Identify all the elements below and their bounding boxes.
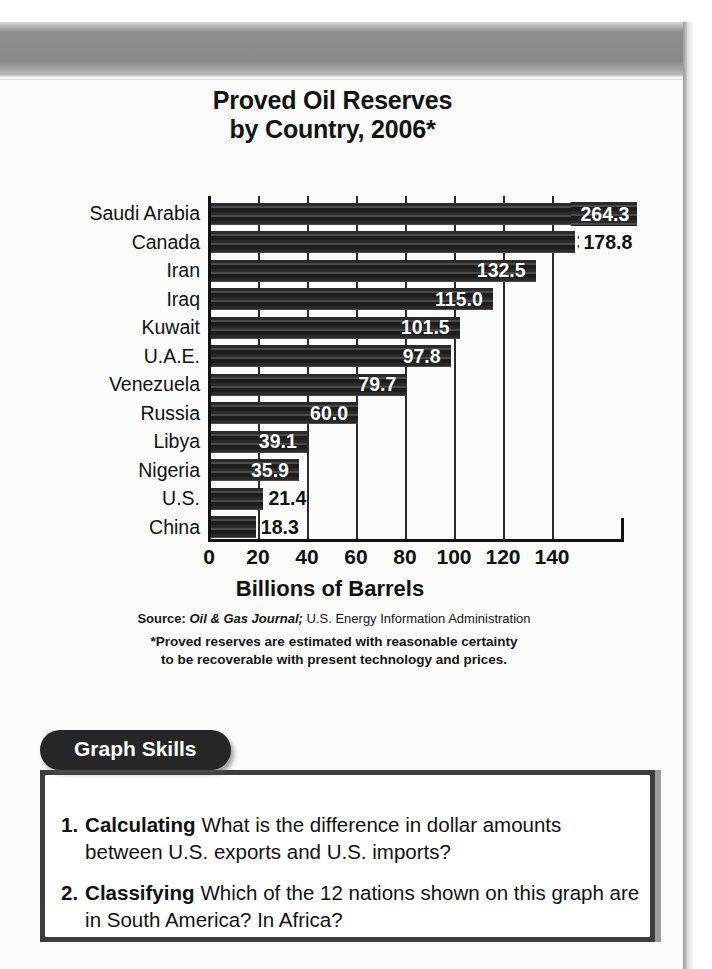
bar-value-label: 264.3 [571, 202, 638, 226]
bar-value-label: 178.8 [584, 230, 633, 255]
x-tick-20: 20 [246, 544, 269, 570]
category-label: Saudi Arabia [0, 201, 200, 226]
x-tick-100: 100 [436, 544, 471, 570]
textbook-page: Proved Oil Reserves by Country, 2006* Sa… [0, 0, 712, 969]
graph-skills-tab: Graph Skills [40, 730, 231, 770]
bar-value-label: 60.0 [296, 401, 348, 426]
footnote-line-1: *Proved reserves are estimated with reas… [0, 633, 668, 651]
bar-row: Canada178.8 [0, 229, 683, 258]
x-tick-0: 0 [203, 544, 215, 570]
skills-question: 1.CalculatingWhat is the difference in d… [61, 811, 641, 866]
footnote-line-2: to be recoverable with present technolog… [0, 651, 668, 669]
category-label: Russia [0, 401, 200, 426]
plot-area: Saudi Arabia264.3Canada178.8Iran132.5Ira… [0, 196, 683, 546]
source-label: Source: [137, 611, 185, 626]
chart-title-line-1: Proved Oil Reserves [0, 86, 665, 115]
bar-row: Saudi Arabia264.3 [0, 200, 683, 229]
bar [211, 488, 263, 510]
source-note: Source: Oil & Gas Journal; U.S. Energy I… [0, 611, 668, 626]
question-number: 2. [61, 879, 78, 934]
bar-row: U.A.E.97.8 [0, 343, 683, 372]
bar-row: Russia60.0 [0, 400, 683, 429]
bar-value-label: 18.3 [261, 515, 299, 540]
bar-value-label: 115.0 [431, 287, 483, 312]
chart-footnote: *Proved reserves are estimated with reas… [0, 633, 668, 669]
chart-title-line-2: by Country, 2006* [0, 115, 665, 144]
bar-chart-figure: Proved Oil Reserves by Country, 2006* Sa… [0, 86, 683, 143]
bar-value-label: 79.7 [344, 372, 396, 397]
bar [211, 516, 256, 538]
bar-value-label: 35.9 [237, 458, 289, 483]
graph-skills-panel: 1.CalculatingWhat is the difference in d… [40, 763, 655, 938]
question-body: ClassifyingWhich of the 12 nations shown… [85, 879, 641, 934]
bar [211, 203, 579, 225]
page-right-shadow [687, 22, 694, 969]
category-label: Venezuela [0, 372, 200, 397]
category-label: Canada [0, 230, 200, 255]
bar-row: Venezuela79.7 [0, 371, 683, 400]
category-label: Iran [0, 258, 200, 283]
bar-row: Kuwait101.5 [0, 314, 683, 343]
question-skill: Calculating [85, 813, 196, 836]
bar-row: China18.3 [0, 514, 683, 543]
bar-value-label: 97.8 [389, 344, 441, 369]
bar-value-label: 132.5 [474, 258, 526, 283]
panel-box: 1.CalculatingWhat is the difference in d… [40, 770, 655, 942]
category-label: Libya [0, 429, 200, 454]
x-tick-120: 120 [485, 544, 520, 570]
category-label: U.S. [0, 486, 200, 511]
category-label: Kuwait [0, 315, 200, 340]
source-publication: Oil & Gas Journal; [189, 611, 302, 626]
bar [211, 231, 579, 253]
x-axis-title: Billions of Barrels [0, 576, 660, 602]
x-tick-40: 40 [295, 544, 318, 570]
category-label: Nigeria [0, 458, 200, 483]
category-label: Iraq [0, 287, 200, 312]
x-tick-80: 80 [393, 544, 416, 570]
bar-value-label: 101.5 [398, 315, 450, 340]
category-label: U.A.E. [0, 344, 200, 369]
bar-row: Iraq115.0 [0, 286, 683, 315]
x-axis-tick-labels: 020406080100120140 [0, 544, 683, 574]
question-list: 1.CalculatingWhat is the difference in d… [61, 811, 641, 946]
bar-row: Libya39.1 [0, 428, 683, 457]
bar-value-label: 21.4 [268, 486, 306, 511]
skills-question: 2.ClassifyingWhich of the 12 nations sho… [61, 879, 641, 934]
page-top-edge-band [0, 22, 688, 77]
x-tick-140: 140 [534, 544, 569, 570]
question-skill: Classifying [85, 881, 194, 904]
bar-row: Nigeria35.9 [0, 457, 683, 486]
question-body: CalculatingWhat is the difference in dol… [85, 811, 641, 866]
x-tick-60: 60 [344, 544, 367, 570]
source-agency: U.S. Energy Information Administration [307, 611, 531, 626]
chart-title: Proved Oil Reserves by Country, 2006* [0, 86, 683, 143]
category-label: China [0, 515, 200, 540]
bar-row: U.S.21.4 [0, 485, 683, 514]
bar-value-label: 39.1 [245, 429, 297, 454]
bar-row: Iran132.5 [0, 257, 683, 286]
question-number: 1. [61, 811, 78, 866]
